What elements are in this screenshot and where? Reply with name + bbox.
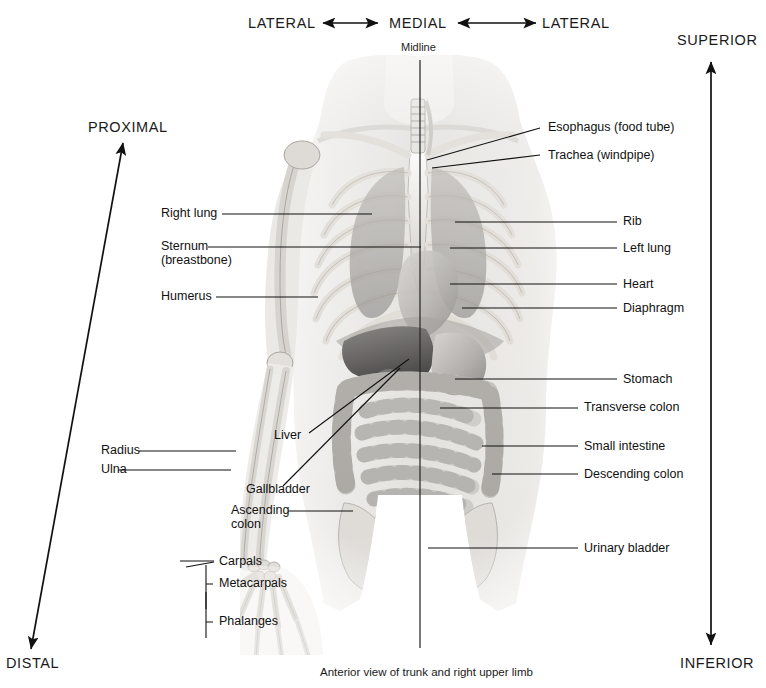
anatomy-figure-page: LATERAL MEDIAL LATERAL SUPERIOR INFERIOR…: [0, 0, 766, 688]
bracket-phalanges: [206, 592, 213, 638]
direction-label-distal: DISTAL: [6, 655, 59, 672]
label-left-lung: Left lung: [623, 241, 671, 256]
label-trachea: Trachea (windpipe): [548, 148, 655, 163]
label-urinary-bladder: Urinary bladder: [584, 541, 669, 556]
leader-carpals-b: [186, 562, 214, 567]
label-gallbladder: Gallbladder: [246, 482, 310, 497]
label-ulna: Ulna: [101, 462, 127, 477]
label-diaphragm: Diaphragm: [623, 301, 684, 316]
label-rib: Rib: [623, 214, 642, 229]
direction-label-lateral-right: LATERAL: [542, 15, 610, 32]
figure-caption: Anterior view of trunk and right upper l…: [320, 666, 533, 680]
label-carpals: Carpals: [219, 554, 262, 569]
midline-label: Midline: [401, 41, 436, 54]
label-transverse-colon: Transverse colon: [584, 400, 679, 415]
label-radius: Radius: [101, 443, 140, 458]
direction-label-lateral-left: LATERAL: [248, 15, 316, 32]
label-esophagus: Esophagus (food tube): [548, 120, 674, 135]
anatomy-illustration: [240, 55, 600, 655]
direction-label-inferior: INFERIOR: [680, 655, 754, 672]
label-small-intestine: Small intestine: [584, 439, 665, 454]
label-ascending-colon: Ascending: [231, 503, 289, 518]
bracket-metacarpals: [206, 565, 213, 609]
label-phalanges: Phalanges: [219, 614, 278, 629]
label-right-lung: Right lung: [161, 206, 217, 221]
label-sternum: Sternum: [161, 239, 208, 254]
label-liver: Liver: [274, 428, 301, 443]
label-metacarpals: Metacarpals: [219, 576, 287, 591]
label-stomach: Stomach: [623, 372, 672, 387]
label-descending-colon: Descending colon: [584, 467, 683, 482]
direction-label-medial: MEDIAL: [389, 15, 447, 32]
direction-label-superior: SUPERIOR: [677, 32, 758, 49]
direction-label-proximal: PROXIMAL: [88, 119, 168, 136]
proximal-distal-arrow: [31, 143, 123, 649]
label-breastbone: (breastbone): [161, 253, 232, 268]
urinary-bladder-shape: [403, 550, 434, 587]
label-ascending-colon-line2: colon: [231, 517, 261, 532]
label-heart: Heart: [623, 277, 654, 292]
label-humerus: Humerus: [161, 289, 212, 304]
